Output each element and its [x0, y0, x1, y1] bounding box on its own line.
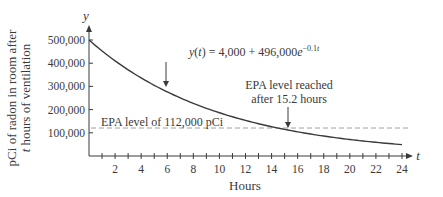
formula-annotation: y(t) = 4,000 + 496,000e−0.1t: [188, 44, 320, 59]
x-tick-label: 8: [190, 163, 196, 175]
y-tick-label: 200,000: [48, 104, 86, 117]
x-axis-title: Hours: [229, 178, 261, 193]
y-tick-label: 100,000: [48, 127, 86, 140]
x-tick-label: 6: [164, 163, 170, 175]
x-tick-label: 4: [138, 163, 144, 175]
x-tick-label: 16: [292, 163, 304, 175]
x-tick-label: 20: [344, 163, 356, 175]
y-tick-label: 300,000: [48, 80, 86, 93]
y-axis-title-line-2: t hours of ventilation: [18, 43, 33, 152]
x-tick-label: 10: [214, 163, 226, 175]
epa-reached-arrowhead-icon: [285, 122, 291, 128]
x-tick-label: 18: [318, 163, 330, 175]
y-axis-arrowhead-icon: [86, 25, 92, 32]
y-tick-label: 500,000: [48, 34, 86, 47]
y-axis-title: pCi of radon in room after t hours of ve…: [4, 29, 33, 166]
x-tick-label: 2: [112, 163, 118, 175]
x-axis-symbol: t: [416, 148, 420, 163]
epa-reached-line-2: after 15.2 hours: [251, 92, 327, 106]
x-tick-label: 22: [370, 163, 382, 175]
epa-level-label: EPA level of 112,000 pCi: [101, 115, 224, 129]
x-tick-label: 14: [266, 163, 278, 175]
y-axis-title-line-1: pCi of radon in room after: [4, 29, 19, 166]
x-tick-label: 12: [240, 163, 252, 175]
epa-reached-line-1: EPA level reached: [245, 78, 333, 92]
y-tick-label: 400,000: [48, 57, 86, 70]
y-axis-symbol: y: [81, 8, 89, 23]
x-tick-label: 24: [396, 163, 408, 175]
x-axis-arrowhead-icon: [406, 153, 413, 159]
radon-decay-chart: 24681012141618202224100,000200,000300,00…: [0, 0, 443, 197]
formula-arrowhead-icon: [163, 81, 169, 87]
